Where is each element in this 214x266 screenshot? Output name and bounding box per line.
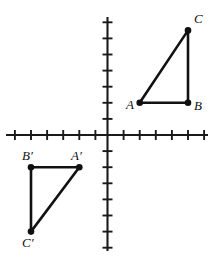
- triangle-a-prime-b-prime-c-prime: [28, 164, 83, 235]
- vertex-c-dot: [185, 27, 192, 34]
- vertex-label-b-prime: B′: [22, 149, 33, 162]
- vertex-b-prime-dot: [28, 164, 35, 171]
- vertex-a-prime-dot: [76, 164, 83, 171]
- vertex-label-a: A: [126, 98, 134, 111]
- vertex-label-a-prime: A′: [71, 149, 82, 162]
- coordinate-plane-svg: [0, 0, 214, 266]
- triangle-a-prime-outline: [31, 167, 79, 231]
- vertex-label-b: B: [194, 99, 202, 112]
- vertex-a-dot: [136, 100, 143, 107]
- vertex-b-dot: [185, 100, 192, 107]
- coordinate-plane-figure: A B C A′ B′ C′: [0, 0, 214, 266]
- vertex-label-c: C: [194, 12, 203, 25]
- triangle-abc-outline: [140, 30, 188, 102]
- vertex-c-prime-dot: [28, 228, 35, 235]
- vertex-label-c-prime: C′: [22, 236, 34, 249]
- triangle-abc: [136, 27, 191, 106]
